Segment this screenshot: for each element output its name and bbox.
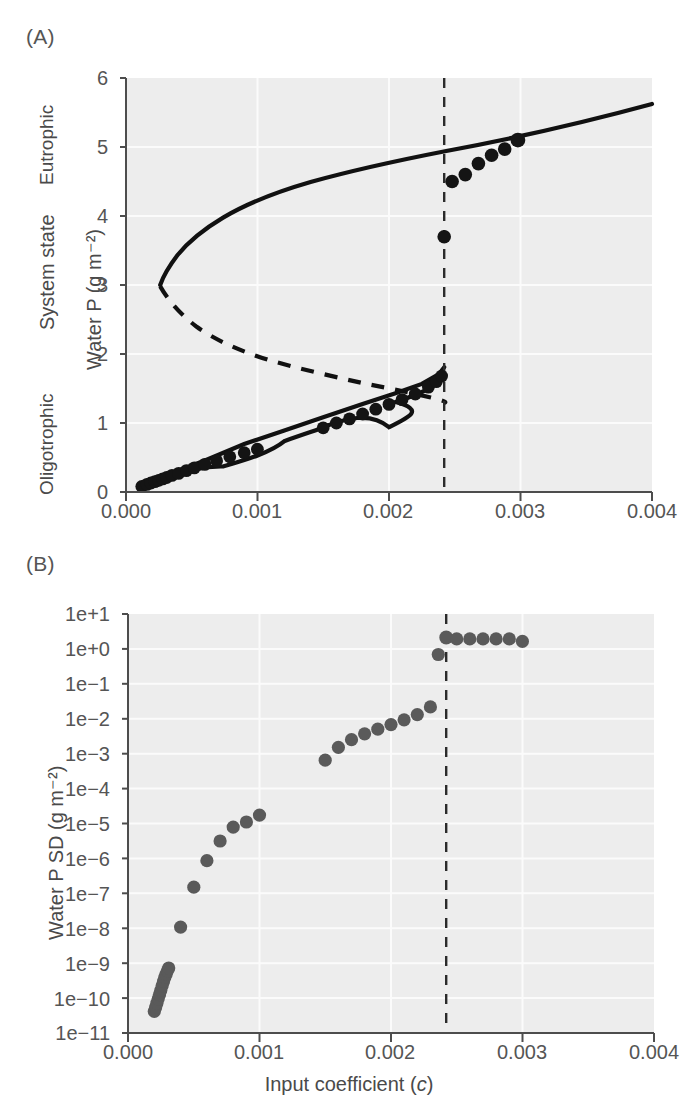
panel-b-xtick-1: 0.001 [223,1041,295,1064]
panel-b-ytick-1e-4: 1e−4 [38,778,110,801]
panel-b-ytick-1e-1: 1e−1 [38,673,110,696]
panel-a-label: (A) [26,25,55,49]
panel-b-ytick-1e-6: 1e−6 [38,848,110,871]
panel-b-ytick-1e-10: 1e−10 [28,988,110,1011]
panel-a-xtick-0: 0.000 [90,500,162,523]
panel-b-plot [122,608,662,1044]
panel-a-state-oligotrophic: Oligotrophic [36,394,58,495]
panel-b-xtick-0: 0.000 [92,1041,164,1064]
panel-a-xtick-4: 0.004 [616,500,688,523]
panel-a-ytick-2: 2 [72,343,108,366]
panel-b-ytick-1e-9: 1e−9 [38,953,110,976]
panel-b-ytick-1e+0: 1e+0 [38,638,110,661]
panel-a-x-tickmarks [126,492,652,501]
panel-a-ytick-5: 5 [72,136,108,159]
panel-a-xtick-2: 0.002 [352,500,424,523]
panel-b-x-axis-title-main: Input coefficient ( [265,1073,417,1095]
panel-b-xtick-2: 0.002 [354,1041,426,1064]
panel-a-xtick-1: 0.001 [221,500,293,523]
figure-container: (A) System state Eutrophic Oligotrophic … [0,0,698,1112]
panel-b-x-axis-title-end: ) [427,1073,434,1095]
panel-b-ytick-1e-7: 1e−7 [38,883,110,906]
panel-a-ytick-6: 6 [72,67,108,90]
panel-b-x-tickmarks [128,1033,654,1042]
panel-a-svg [120,72,660,502]
panel-b-ytick-1e-5: 1e−5 [38,813,110,836]
panel-b-ytick-1e-2: 1e−2 [38,708,110,731]
panel-a-system-state-title: System state [36,214,59,330]
panel-b-ytick-1e-8: 1e−8 [38,918,110,941]
panel-b-ytick-1e-3: 1e−3 [38,743,110,766]
panel-b-xtick-3: 0.003 [486,1041,558,1064]
panel-b-x-axis-title: Input coefficient (c) [0,1073,698,1096]
panel-a-ytick-1: 1 [72,412,108,435]
panel-a-plot [120,72,660,502]
panel-a-ytick-4: 4 [72,205,108,228]
panel-b-ytick-1e+1: 1e+1 [38,603,110,626]
panel-b-x-axis-title-italic: c [417,1073,427,1095]
panel-b-svg [122,608,662,1044]
panel-a-ytick-3: 3 [72,274,108,297]
panel-b-label: (B) [26,552,55,576]
panel-a-state-eutrophic: Eutrophic [36,105,58,185]
panel-b-xtick-4: 0.004 [618,1041,690,1064]
panel-a-xtick-3: 0.003 [484,500,556,523]
